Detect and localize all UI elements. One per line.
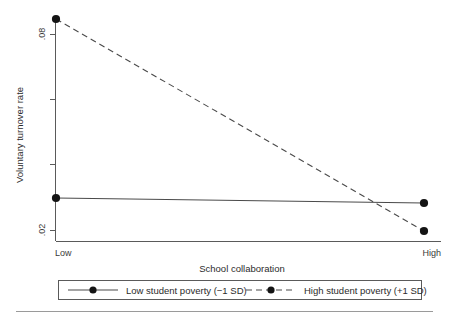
data-point-low-poverty-low (52, 194, 60, 202)
data-point-low-poverty-high (420, 199, 428, 207)
x-axis-title: School collaboration (199, 263, 285, 274)
legend-swatch-marker-high-poverty (267, 286, 274, 293)
legend-label-low-poverty: Low student poverty (−1 SD) (126, 285, 247, 296)
y-tick-label-08: .08 (37, 28, 47, 41)
y-axis-title: Voluntary turnover rate (14, 87, 25, 183)
chart-canvas: Voluntary turnover rate .08 .02 Low High… (0, 0, 449, 320)
data-point-high-poverty-high (420, 227, 428, 235)
legend-label-high-poverty: High student poverty (+1 SD) (304, 285, 427, 296)
x-tick-label-high: High (422, 248, 441, 258)
legend-swatch-marker-low-poverty (89, 286, 96, 293)
y-tick-label-02: .02 (37, 224, 47, 237)
chart-figure: Voluntary turnover rate .08 .02 Low High… (0, 0, 449, 320)
x-tick-label-low: Low (55, 248, 72, 258)
data-point-high-poverty-low (52, 15, 60, 23)
